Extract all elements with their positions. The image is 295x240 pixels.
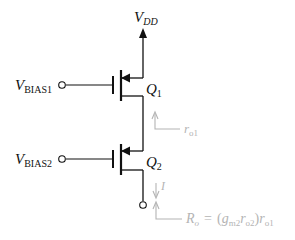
input-terminal xyxy=(59,82,66,89)
output-terminal xyxy=(140,202,147,209)
q1-label: Q1 xyxy=(146,81,162,99)
ro1-label: ro1 xyxy=(184,121,198,138)
ro-arrow-icon xyxy=(153,202,182,219)
input-terminal xyxy=(59,156,66,163)
vdd-arrow-icon xyxy=(139,28,147,78)
ro-equation: Ro=(gm2ro2)ro1 xyxy=(185,211,274,228)
source-arrow-icon xyxy=(121,74,130,83)
current-arrow-icon xyxy=(153,183,159,198)
cascode-schematic: VDD Q1 VBIAS1 Q2 VBIAS2 ro1 xyxy=(0,0,295,240)
vdd-label: VDD xyxy=(134,9,158,27)
vbias1-label: VBIAS1 xyxy=(15,77,52,95)
current-label: I xyxy=(160,179,166,193)
ro1-arrow-icon xyxy=(152,112,180,129)
q2-label: Q2 xyxy=(146,154,162,172)
vbias2-label: VBIAS2 xyxy=(15,151,52,169)
transistor-q1 xyxy=(59,70,143,101)
source-arrow-icon xyxy=(121,147,130,156)
transistor-q2 xyxy=(59,144,143,175)
